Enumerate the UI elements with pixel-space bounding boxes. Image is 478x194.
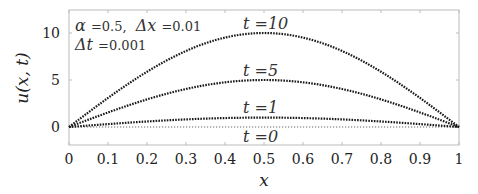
x-tick-label: 0.4 [214, 151, 236, 167]
dt-symbol: Δt [74, 35, 94, 54]
y-tick-label: 0 [51, 119, 60, 135]
param-annotation-line1: α =0.5, Δx =0.01 [75, 16, 201, 35]
x-tick-label: 0.3 [175, 151, 197, 167]
y-tick-label: 5 [51, 72, 60, 88]
y-axis-label: u(x, t) [12, 52, 32, 103]
y-tick-label: 10 [42, 25, 60, 41]
x-tick-label: 0.7 [331, 151, 353, 167]
alpha-symbol: α [75, 16, 86, 35]
series-t1 [69, 118, 459, 127]
dx-symbol: Δx [135, 16, 157, 35]
x-tick-label: 0 [65, 151, 74, 167]
x-tick-label: 0.8 [370, 151, 392, 167]
curve-label-t0: t =0 [243, 127, 278, 146]
curve-label-t1: t =1 [243, 98, 278, 117]
x-tick-label: 0.9 [409, 151, 431, 167]
dt-value: =0.001 [98, 38, 146, 53]
dx-value: =0.01 [161, 19, 201, 34]
alpha-value: =0.5, [91, 19, 127, 34]
chart-canvas: 00.10.20.30.40.50.60.70.80.91 0510 x u(x… [0, 0, 478, 194]
x-tick-label: 0.6 [292, 151, 314, 167]
x-axis-label: x [259, 170, 269, 190]
param-annotation-line2: Δt =0.001 [74, 35, 146, 54]
x-tick-label: 0.1 [97, 151, 119, 167]
x-tick-label: 0.2 [136, 151, 158, 167]
curve-label-t10: t =10 [243, 14, 288, 33]
curve-label-t5: t =5 [243, 61, 278, 80]
x-tick-label: 0.5 [253, 151, 275, 167]
x-tick-label: 1 [455, 151, 464, 167]
